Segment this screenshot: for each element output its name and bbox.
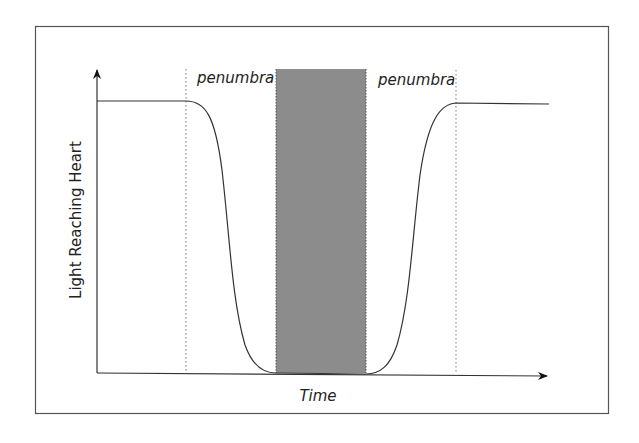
penumbra-left-label: penumbra: [196, 69, 274, 87]
penumbra-right-label: penumbra: [377, 71, 455, 89]
umbra-region: [276, 69, 366, 373]
y-axis-label: Light Reaching Heart: [67, 141, 85, 299]
x-axis-label: Time: [299, 387, 336, 405]
diagram-canvas: penumbra penumbra Time Light Reaching He…: [0, 0, 639, 443]
